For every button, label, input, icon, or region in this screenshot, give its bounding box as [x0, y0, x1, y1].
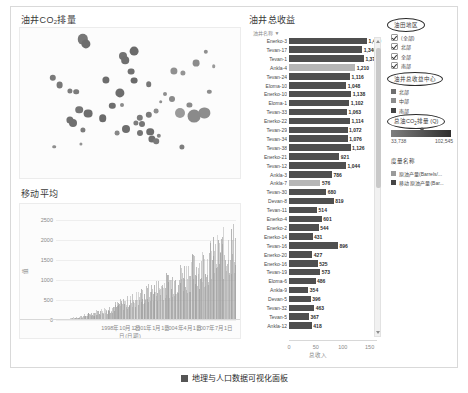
bar-rect[interactable] — [289, 313, 309, 320]
bar-rect[interactable] — [289, 242, 338, 249]
bar-row[interactable]: Ankla-12418 — [247, 322, 379, 330]
scatter-point[interactable] — [187, 103, 192, 108]
scatter-point[interactable] — [204, 50, 208, 54]
scatter-point[interactable] — [109, 103, 115, 109]
scatter-point[interactable] — [114, 131, 119, 136]
bar-row[interactable]: Tevan-30680 — [247, 188, 379, 196]
color-legend-item[interactable]: 北部 — [391, 88, 455, 95]
bar-rect[interactable] — [289, 38, 367, 45]
bar-rect[interactable] — [289, 180, 320, 187]
bar-rect[interactable] — [289, 233, 313, 240]
scatter-point[interactable] — [154, 109, 159, 114]
bar-row[interactable]: Tevan-11,370 — [247, 55, 379, 63]
bar-row[interactable]: Ankla-9354 — [247, 286, 379, 294]
bar-row[interactable]: Tevan-11514 — [247, 206, 379, 214]
scatter-point[interactable] — [102, 76, 109, 83]
bar-rect[interactable] — [289, 260, 318, 267]
bar-row[interactable]: Eloma-6486 — [247, 277, 379, 285]
scatter-point[interactable] — [193, 60, 200, 67]
bar-row[interactable]: Enerko-21921 — [247, 153, 379, 161]
bar-chart-column-header[interactable]: 油井名称 ▼ — [253, 29, 279, 36]
checkbox-checked-icon[interactable] — [391, 53, 398, 60]
scatter-point[interactable] — [76, 106, 84, 114]
bar-row[interactable]: Enerko-31,429 — [247, 37, 379, 45]
bar-rect[interactable] — [289, 135, 348, 142]
bar-rect[interactable] — [289, 251, 312, 258]
scatter-point[interactable] — [69, 119, 77, 127]
scatter-point[interactable] — [131, 77, 138, 84]
bar-row[interactable]: Ankla-41,210 — [247, 64, 379, 72]
bar-rect[interactable] — [289, 73, 350, 80]
scatter-point[interactable] — [169, 96, 175, 102]
scroll-down-arrow-icon[interactable] — [376, 331, 380, 334]
scatter-point[interactable] — [50, 74, 56, 80]
vertical-scrollbar[interactable] — [374, 37, 381, 337]
bar-rect[interactable] — [289, 224, 319, 231]
scatter-point[interactable] — [56, 82, 63, 89]
bar-row[interactable]: Enerko-221,114 — [247, 117, 379, 125]
bar-row[interactable]: Tevan-32463 — [247, 304, 379, 312]
scatter-point[interactable] — [163, 92, 167, 96]
scroll-up-arrow-icon[interactable] — [376, 40, 380, 43]
bar-row[interactable]: Tevan-5367 — [247, 313, 379, 321]
scatter-point[interactable] — [130, 47, 139, 56]
checkbox-checked-icon[interactable] — [391, 34, 398, 41]
bar-rect[interactable] — [289, 269, 320, 276]
moving-average-plot-area[interactable]: 值 05001000150020002500 日(日期) 1998年10月1日2… — [19, 203, 241, 339]
bar-rect[interactable] — [289, 127, 348, 134]
scatter-point[interactable] — [81, 39, 90, 48]
bar-rect[interactable] — [289, 296, 311, 303]
bar-rect[interactable] — [289, 82, 346, 89]
bar-rect[interactable] — [289, 144, 351, 151]
region-filter-item[interactable]: 全部 — [391, 53, 455, 60]
bar-row[interactable]: Enerko-16525 — [247, 260, 379, 268]
scatter-point[interactable] — [212, 64, 216, 68]
bar-rect[interactable] — [289, 198, 334, 205]
bar-row[interactable]: Tevan-16896 — [247, 242, 379, 250]
scatter-point[interactable] — [146, 128, 154, 136]
color-legend-item[interactable]: 中部 — [391, 97, 455, 104]
scatter-point[interactable] — [80, 127, 85, 132]
checkbox-checked-icon[interactable] — [391, 43, 398, 50]
gradient-color-ramp[interactable] — [391, 130, 451, 137]
bar-row[interactable]: Eloma-101,048 — [247, 82, 379, 90]
scatter-point[interactable] — [52, 145, 56, 149]
scatter-point[interactable] — [83, 109, 92, 118]
scatter-point[interactable] — [139, 121, 145, 127]
scatter-point[interactable] — [175, 108, 185, 118]
sort-descending-icon[interactable]: ▼ — [274, 30, 279, 36]
bar-rect[interactable] — [289, 189, 326, 196]
scrollbar-thumb[interactable] — [376, 48, 381, 188]
bar-rect[interactable] — [289, 162, 346, 169]
bar-rect[interactable] — [289, 91, 351, 98]
bar-row[interactable]: Tevan-291,072 — [247, 126, 379, 134]
scatter-point[interactable] — [146, 81, 152, 87]
scatter-point[interactable] — [159, 100, 163, 104]
bar-rect[interactable] — [289, 46, 362, 53]
bar-row[interactable]: Tevan-171,340 — [247, 46, 379, 54]
bar-row[interactable]: Enerko-101,138 — [247, 90, 379, 98]
scatter-point[interactable] — [122, 125, 130, 133]
scatter-point[interactable] — [180, 70, 185, 75]
bar-rect[interactable] — [289, 109, 347, 116]
bar-row[interactable]: Tevan-381,126 — [247, 144, 379, 152]
scatter-point[interactable] — [145, 112, 151, 118]
bar-rect[interactable] — [289, 322, 312, 329]
scatter-point[interactable] — [128, 68, 135, 75]
scatter-point[interactable] — [199, 107, 210, 118]
scatter-point[interactable] — [79, 143, 82, 146]
scatter-point[interactable] — [99, 114, 107, 122]
scatter-point[interactable] — [170, 67, 177, 74]
bar-rect[interactable] — [289, 100, 349, 107]
bar-rect[interactable] — [289, 207, 317, 214]
bar-rect[interactable] — [289, 305, 314, 312]
measure-legend-item[interactable]: 移动 原油产量(Bar... — [391, 179, 455, 186]
bar-rect[interactable] — [289, 55, 364, 62]
region-filter-item[interactable]: 北部 — [391, 43, 455, 50]
scatter-point[interactable] — [153, 138, 159, 144]
bar-rect[interactable] — [289, 64, 355, 71]
bar-row[interactable]: Devan-8819 — [247, 197, 379, 205]
scatter-point[interactable] — [116, 88, 125, 97]
bar-row[interactable]: Enerko-20427 — [247, 251, 379, 259]
bar-row[interactable]: Eloma-11,102 — [247, 99, 379, 107]
